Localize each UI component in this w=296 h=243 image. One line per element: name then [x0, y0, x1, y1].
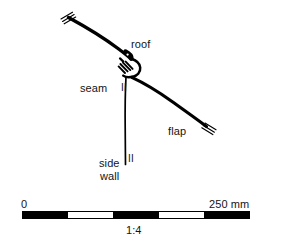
scale-bar-segment — [204, 212, 249, 218]
scale-bar-segment — [159, 212, 204, 218]
roof-line — [69, 18, 132, 60]
scale-bar-segment — [23, 212, 68, 218]
flap-line — [132, 77, 207, 126]
scale-start-label: 0 — [21, 198, 27, 211]
label-roof: roof — [131, 38, 150, 51]
scale-bar-segment — [68, 212, 113, 218]
label-seam-marker: II — [121, 81, 127, 94]
scale-bar — [22, 211, 250, 219]
diagram-root: roof seam II flap side wall II 0 250 mm … — [0, 0, 296, 243]
scale-end-label: 250 mm — [209, 198, 249, 211]
scale-bar-segment — [113, 212, 158, 218]
roof-bead-eye — [126, 53, 128, 55]
label-seam: seam — [80, 82, 107, 95]
label-side: side — [99, 157, 120, 170]
seam-tick — [120, 58, 123, 61]
seam-hatching — [119, 62, 133, 73]
cross-section-drawing — [0, 0, 296, 243]
label-flap: flap — [168, 125, 186, 138]
label-wall: wall — [100, 170, 119, 183]
label-side-wall-marker: II — [128, 152, 134, 165]
scale-ratio-label: 1:4 — [126, 224, 142, 237]
